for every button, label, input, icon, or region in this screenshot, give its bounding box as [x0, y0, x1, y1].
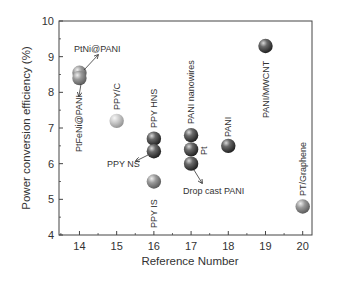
y-tick-label: 10 — [42, 15, 54, 27]
x-tick-label: 19 — [259, 240, 271, 252]
annotation-ppyns: PPY NS — [107, 159, 140, 169]
y-tick-label: 7 — [48, 122, 54, 134]
annotation-ppyhns: PPY HNS — [149, 89, 159, 128]
y-tick-label: 4 — [48, 229, 54, 241]
x-tick-label: 18 — [222, 240, 234, 252]
arrow-ppyns — [136, 155, 148, 161]
arrow-ptni — [84, 55, 98, 70]
x-axis-title: Reference Number — [141, 255, 238, 267]
data-point — [184, 142, 198, 156]
data-point — [147, 132, 161, 146]
arrow-ptfeni — [79, 84, 81, 96]
annotation-ppyc: PPY/C — [112, 82, 122, 110]
data-point — [295, 199, 309, 213]
data-point — [221, 139, 235, 153]
data-point — [184, 128, 198, 142]
x-tick-label: 20 — [297, 240, 309, 252]
data-point — [109, 114, 123, 128]
data-point — [147, 144, 161, 158]
x-tick-label: 17 — [185, 240, 197, 252]
arrow-dropcast — [194, 170, 202, 183]
y-tick-label: 5 — [48, 193, 54, 205]
x-tick-label: 14 — [73, 240, 85, 252]
annotation-pt: Pt — [199, 146, 209, 155]
annotation-ppyis: PPY IS — [149, 199, 159, 228]
data-point — [184, 156, 198, 170]
x-tick-label: 16 — [148, 240, 160, 252]
annotation-ptni: PtNi@PANI — [74, 44, 120, 54]
annotation-paninw: PANI nanowires — [186, 60, 196, 124]
data-point — [72, 71, 86, 85]
data-point — [258, 39, 272, 53]
data-point — [147, 174, 161, 188]
y-axis-title: Power conversion efficiency (%) — [20, 46, 32, 210]
y-tick-label: 8 — [48, 86, 54, 98]
y-tick-label: 6 — [48, 158, 54, 170]
annotation-ptfeni: PtFeNi@PANI — [74, 95, 84, 152]
annotation-mwcnt: PANI/MWCNT — [261, 60, 271, 118]
annotation-graphene: PT/Graphene — [298, 142, 308, 196]
y-tick-label: 9 — [48, 51, 54, 63]
annotation-pani: PANI — [223, 117, 233, 137]
scatter-chart: 4567891014151617181920 Reference Number … — [0, 0, 345, 281]
annotation-dropcast: Drop cast PANI — [183, 186, 244, 196]
x-tick-label: 15 — [111, 240, 123, 252]
